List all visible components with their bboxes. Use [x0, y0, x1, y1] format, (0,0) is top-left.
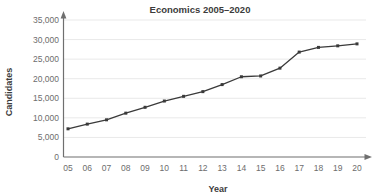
y-axis-tick-label: 10,000 — [33, 113, 59, 123]
x-axis-tick-label: 20 — [352, 163, 362, 173]
x-axis-tick-labels: 05060708091011121314151617181920 — [63, 163, 362, 173]
data-point-marker — [163, 100, 166, 103]
y-axis-tick-label: 20,000 — [33, 74, 59, 84]
y-axis-tick-label: 0 — [54, 152, 59, 162]
x-axis-tick-label: 06 — [83, 163, 93, 173]
y-axis-title: Candidates — [4, 68, 14, 117]
data-point-marker — [105, 118, 108, 121]
y-axis-tick-label: 35,000 — [33, 15, 59, 25]
line-chart: Economics 2005–2020 Candidates Year 05,0… — [0, 0, 376, 196]
x-axis-tick-label: 15 — [256, 163, 266, 173]
series-line-candidates — [68, 44, 357, 129]
y-axis-tick-label: 30,000 — [33, 35, 59, 45]
data-point-marker — [278, 67, 281, 70]
data-point-marker — [259, 74, 262, 77]
data-point-marker — [221, 83, 224, 86]
x-axis-tick-label: 05 — [63, 163, 73, 173]
data-point-marker — [356, 42, 359, 45]
x-axis-tick-label: 14 — [237, 163, 247, 173]
data-point-marker — [336, 44, 339, 47]
y-axis-tick-label: 25,000 — [33, 54, 59, 64]
x-axis-tick-label: 11 — [179, 163, 188, 173]
data-point-marker — [144, 106, 147, 109]
chart-title: Economics 2005–2020 — [150, 4, 251, 15]
data-point-marker — [182, 95, 185, 98]
x-axis-tick-label: 09 — [140, 163, 150, 173]
x-axis-tick-label: 16 — [275, 163, 285, 173]
chart-canvas: Economics 2005–2020 Candidates Year 05,0… — [0, 0, 376, 196]
data-point-marker — [240, 75, 243, 78]
series-markers — [67, 42, 359, 130]
x-axis-tick-label: 19 — [333, 163, 343, 173]
x-axis-tick-label: 08 — [121, 163, 131, 173]
x-axis-tick-label: 10 — [160, 163, 170, 173]
y-axis-tick-label: 5,000 — [38, 132, 60, 142]
data-point-marker — [201, 90, 204, 93]
data-point-marker — [317, 46, 320, 49]
y-axis-tick-label: 15,000 — [33, 93, 59, 103]
x-axis-tick-label: 18 — [314, 163, 324, 173]
x-axis-tick-label: 13 — [217, 163, 227, 173]
x-axis-tick-label: 12 — [198, 163, 208, 173]
y-axis-arrow-icon — [61, 11, 67, 19]
x-axis-tick-label: 17 — [294, 163, 304, 173]
x-axis-tick-label: 07 — [102, 163, 112, 173]
x-axis-title: Year — [208, 184, 228, 194]
x-axis-arrow-icon — [365, 154, 373, 160]
data-point-marker — [67, 127, 70, 130]
gridlines — [64, 20, 366, 137]
y-axis-tick-labels: 05,00010,00015,00020,00025,00030,00035,0… — [33, 15, 59, 162]
data-point-marker — [86, 123, 89, 126]
data-point-marker — [124, 112, 127, 115]
data-point-marker — [298, 51, 301, 54]
